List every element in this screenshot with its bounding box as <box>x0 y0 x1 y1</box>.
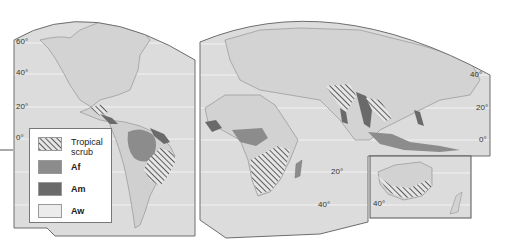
lat-label-right-20: 20° <box>476 103 488 112</box>
lat-label-africa-40: 40° <box>318 200 330 209</box>
legend-label-aw: Aw <box>71 206 84 216</box>
hatch-swatch-icon <box>38 137 62 151</box>
legend-item-aw: Aw <box>38 204 84 218</box>
lat-label-left-40: 40° <box>16 68 28 77</box>
legend-label-tropical: Tropical <box>71 137 103 147</box>
legend-label-af: Af <box>71 162 81 172</box>
lat-label-right-0: 0° <box>479 135 487 144</box>
lat-label-australia-40: 40° <box>373 199 385 208</box>
legend-item-af: Af <box>38 160 81 174</box>
australia-inset <box>370 156 471 218</box>
lat-label-africa-20: 20° <box>331 167 343 176</box>
legend-label-scrub: scrub <box>71 147 103 157</box>
aw-swatch-icon <box>38 204 62 218</box>
am-swatch-icon <box>38 182 62 196</box>
lat-label-left-0: 0° <box>16 133 24 142</box>
legend-label-am: Am <box>71 184 86 194</box>
legend-item-am: Am <box>38 182 86 196</box>
af-swatch-icon <box>38 160 62 174</box>
map-legend: Tropical scrub Af Am Aw <box>29 128 112 223</box>
lat-label-left-20: 20° <box>16 102 28 111</box>
lat-label-left-60: 60° <box>16 37 28 46</box>
legend-item-tropical-scrub: Tropical scrub <box>38 137 103 157</box>
lat-label-right-40: 40° <box>470 70 482 79</box>
